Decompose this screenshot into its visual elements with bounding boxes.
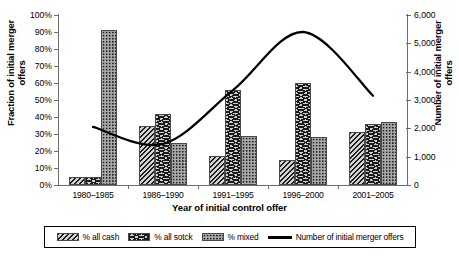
line-series-layer (58, 14, 408, 186)
y-axis-left-tick-label: 20% (35, 146, 52, 156)
y-axis-left-tick-label: 40% (35, 112, 52, 122)
chart-legend: % all cash% all sotck% mixedNumber of in… (44, 226, 416, 248)
y-axis-left-tick-label: 80% (35, 44, 52, 54)
y-axis-left-tick-label: 0% (40, 180, 52, 190)
y-axis-right-tick-label: 0 (414, 180, 419, 190)
y-axis-left-tick-label: 70% (35, 61, 52, 71)
y-axis-right-tick-label: 5,000 (414, 38, 436, 48)
chart-container: Fraction of initial merger offers Number… (0, 0, 459, 256)
legend-line-swatch-icon (268, 236, 292, 239)
legend-item[interactable]: Number of initial merger offers (268, 232, 404, 242)
legend-item-label: % mixed (228, 232, 259, 242)
y-axis-right-tick-label: 6,000 (414, 10, 436, 20)
y-axis-left-tick-label: 90% (35, 27, 52, 37)
legend-item[interactable]: % all cash (57, 232, 120, 242)
legend-item-label: Number of initial merger offers (296, 232, 404, 242)
legend-chevron-hatch-swatch-icon (128, 233, 150, 241)
x-axis-title: Year of initial control offer (0, 202, 459, 213)
x-axis-tick-label: 1986–1990 (142, 190, 183, 200)
y-axis-left-tick-label: 60% (35, 78, 52, 88)
x-axis-tick-label: 1991–1995 (212, 190, 253, 200)
legend-item[interactable]: % mixed (202, 232, 259, 242)
y-axis-right-tick-label: 3,000 (414, 95, 436, 105)
legend-item-label: % all sotck (154, 232, 192, 242)
y-axis-left-tick-label: 100% (30, 10, 52, 20)
plot-area: 0%10%20%30%40%50%60%70%80%90%100% 01,000… (58, 14, 408, 186)
x-axis-tick-label: 2001–2005 (352, 190, 393, 200)
y-axis-left-tick-label: 10% (35, 163, 52, 173)
y-axis-left-tick-label: 50% (35, 95, 52, 105)
y-axis-right-tick-label: 2,000 (414, 123, 436, 133)
y-axis-left-tick-label: 30% (35, 129, 52, 139)
y-axis-right-tick-label: 4,000 (414, 67, 436, 77)
x-axis-tick-label: 1980–1985 (72, 190, 113, 200)
legend-diagonal-hatch-swatch-icon (57, 233, 79, 241)
y-axis-right-tick-label: 1,000 (414, 152, 436, 162)
merger-offers-line (93, 32, 373, 145)
legend-item-label: % all cash (83, 232, 120, 242)
legend-dotted-stipple-swatch-icon (202, 233, 224, 241)
legend-item[interactable]: % all sotck (128, 232, 192, 242)
y-axis-left-title: Fraction of initial merger offers (5, 8, 27, 138)
x-axis-tick-label: 1996–2000 (282, 190, 323, 200)
